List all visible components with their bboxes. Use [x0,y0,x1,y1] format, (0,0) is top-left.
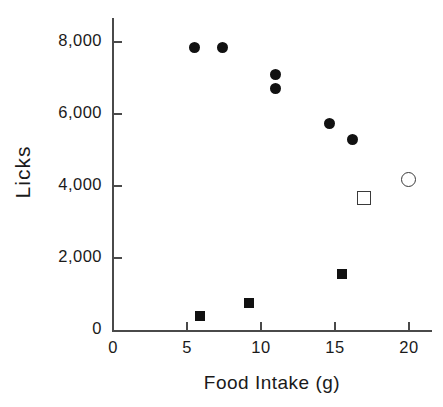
data-point-filled-square [244,298,254,308]
x-tick-mark [408,322,410,331]
y-axis-line [112,18,114,332]
x-axis-title: Food Intake (g) [112,372,432,394]
scatter-chart-figure: 02,0004,0006,0008,000 05101520 Licks Foo… [0,0,443,407]
data-point-filled-circle [270,69,281,80]
data-point-filled-circle [324,118,335,129]
data-point-open-square [357,191,371,205]
x-tick-label: 20 [384,338,434,357]
x-axis-line [112,330,432,332]
x-tick-label: 10 [236,338,286,357]
y-tick-label: 2,000 [2,247,102,266]
y-tick-mark [114,113,122,115]
data-point-filled-circle [217,42,228,53]
x-tick-mark [334,322,336,331]
y-tick-label: 6,000 [2,103,102,122]
y-tick-mark [114,185,122,187]
x-tick-label: 0 [88,338,138,357]
data-point-filled-square [195,311,205,321]
data-point-filled-circle [347,134,358,145]
plot-area: 02,0004,0006,0008,000 05101520 [0,0,443,407]
x-tick-mark [260,322,262,331]
data-point-filled-circle [189,42,200,53]
y-axis-title: Licks [11,132,35,212]
y-tick-mark [114,257,122,259]
x-tick-mark [186,322,188,331]
data-point-filled-circle [270,83,281,94]
x-tick-label: 5 [162,338,212,357]
y-tick-label: 0 [2,319,102,338]
y-tick-mark [114,41,122,43]
data-point-open-circle [401,172,416,187]
x-tick-label: 15 [310,338,360,357]
data-point-filled-square [337,269,347,279]
y-tick-label: 8,000 [2,31,102,50]
